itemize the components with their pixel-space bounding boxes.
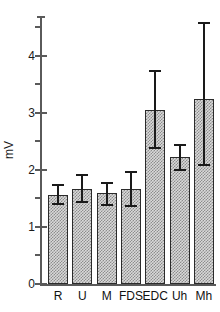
y-axis-label: mV (2, 130, 16, 170)
error-bar-line-uh (179, 145, 181, 170)
error-bar-cap-lower-uh (174, 169, 186, 171)
x-axis-line (40, 284, 216, 286)
error-bar-cap-lower-fds (125, 205, 137, 207)
error-bar-cap-upper-mh (198, 22, 210, 24)
x-tick-label-uh: Uh (172, 290, 187, 302)
error-bar-line-m (106, 183, 108, 205)
x-tick-label-mh: Mh (196, 290, 213, 302)
error-bar-line-edc (154, 71, 156, 147)
error-bar-line-mh (203, 23, 205, 165)
y-tick-label: 0 (28, 278, 35, 290)
y-tick-minor (35, 254, 42, 256)
error-bar-cap-upper-r (52, 184, 64, 186)
y-tick-minor (35, 26, 42, 28)
y-tick-mark (35, 55, 47, 57)
y-tick-label: 1 (28, 221, 35, 233)
y-tick-mark (35, 226, 47, 228)
error-bar-line-u (81, 175, 83, 203)
plot-area: 01234 RUMFDSEDCUhMh (40, 14, 216, 286)
y-tick-label: 3 (28, 107, 35, 119)
error-bar-cap-upper-edc (149, 70, 161, 72)
error-bar-cap-lower-r (52, 203, 64, 205)
y-tick-mark (35, 169, 47, 171)
error-bar-cap-upper-u (76, 174, 88, 176)
bar-uh (170, 157, 190, 284)
error-bar-cap-lower-u (76, 201, 88, 203)
y-tick-mark (35, 283, 47, 285)
y-tick-minor (35, 197, 42, 199)
bar-r (48, 195, 68, 284)
error-bar-cap-lower-mh (198, 164, 210, 166)
x-tick-label-fds: FDS (119, 290, 143, 302)
error-bar-cap-lower-m (101, 204, 113, 206)
bar-m (97, 193, 117, 284)
error-bar-cap-lower-edc (149, 147, 161, 149)
y-tick-label: 4 (28, 50, 35, 62)
bar-chart: mV 01234 RUMFDSEDCUhMh (0, 0, 220, 312)
y-tick-minor (35, 83, 42, 85)
y-axis-top-cap (37, 16, 45, 18)
x-tick-label-m: M (102, 290, 112, 302)
error-bar-cap-upper-uh (174, 144, 186, 146)
x-tick-label-u: U (78, 290, 87, 302)
error-bar-cap-upper-m (101, 182, 113, 184)
error-bar-line-fds (130, 172, 132, 207)
error-bar-cap-upper-fds (125, 171, 137, 173)
y-tick-mark (35, 112, 47, 114)
error-bar-line-r (57, 185, 59, 204)
x-tick-label-edc: EDC (143, 290, 168, 302)
y-tick-label: 2 (28, 164, 35, 176)
y-tick-minor (35, 140, 42, 142)
x-tick-label-r: R (54, 290, 63, 302)
